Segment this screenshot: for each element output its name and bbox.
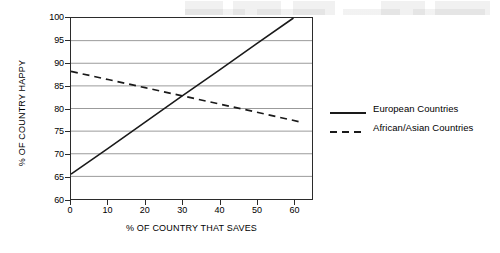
plot-area	[70, 17, 313, 200]
y-tick-label: 60	[54, 196, 64, 205]
x-tick-label: 10	[102, 205, 112, 215]
x-tick-label: 30	[177, 205, 187, 215]
scan-artifact-band-secondary	[185, 9, 485, 15]
legend-swatch-solid-icon	[330, 104, 366, 114]
series-line-african-asian	[71, 71, 301, 122]
y-axis-title: % OF COUNTRY HAPPY	[17, 33, 27, 193]
legend-label: European Countries	[373, 103, 458, 114]
y-tick-label: 65	[54, 173, 64, 182]
y-tick-label: 80	[54, 104, 64, 113]
y-tick-label: 100	[49, 13, 64, 22]
y-tick-label: 95	[54, 35, 64, 44]
x-tick-label: 20	[140, 205, 150, 215]
y-axis-tick-labels: 100 95 90 85 80 75 70 65 60	[32, 17, 64, 200]
chart-legend: European Countries African/Asian Countri…	[330, 99, 473, 137]
y-tick-label: 75	[54, 127, 64, 136]
y-tick-label: 90	[54, 58, 64, 67]
x-tick-label: 50	[252, 205, 262, 215]
data-series-layer	[71, 18, 312, 199]
x-tick-label: 60	[289, 205, 299, 215]
x-tick-label: 0	[67, 205, 72, 215]
legend-item-african-asian: African/Asian Countries	[330, 118, 473, 137]
x-tick-label: 40	[215, 205, 225, 215]
y-tick-label: 85	[54, 81, 64, 90]
x-axis-tick-labels: 0 10 20 30 40 50 60	[70, 205, 313, 219]
legend-label: African/Asian Countries	[373, 122, 473, 133]
legend-item-european: European Countries	[330, 99, 473, 118]
chart-figure: 100 95 90 85 80 75 70 65 60 % OF COUNTRY…	[0, 0, 500, 253]
legend-swatch-dashed-icon	[330, 123, 366, 133]
x-axis-title: % OF COUNTRY THAT SAVES	[70, 223, 313, 233]
y-tick-label: 70	[54, 150, 64, 159]
